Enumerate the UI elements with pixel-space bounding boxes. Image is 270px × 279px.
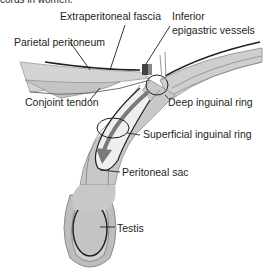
label-deep-inguinal-ring: Deep inguinal ring: [168, 96, 253, 108]
label-inferior-epigastric-vessels: epigastric vessels: [172, 24, 255, 36]
label-testis: Testis: [117, 222, 144, 234]
label-extraperitoneal-fascia: Extraperitoneal fascia: [60, 10, 161, 22]
label-inferior-line1: Inferior: [172, 10, 205, 22]
label-superficial-inguinal-ring: Superficial inguinal ring: [143, 128, 252, 140]
label-parietal-peritoneum: Parietal peritoneum: [14, 36, 105, 48]
label-peritoneal-sac: Peritoneal sac: [122, 166, 189, 178]
label-conjoint-tendon: Conjoint tendon: [25, 96, 99, 108]
